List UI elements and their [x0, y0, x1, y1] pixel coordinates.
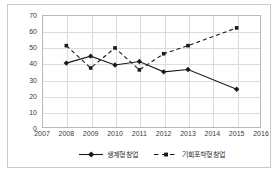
x-tick-label: 2009 — [83, 130, 99, 137]
x-tick-label: 2010 — [107, 130, 123, 137]
data-point-marker — [234, 87, 239, 92]
data-point-marker — [185, 67, 190, 72]
data-point-marker — [88, 53, 93, 58]
data-point-marker — [112, 62, 117, 67]
data-point-marker — [161, 69, 166, 74]
x-axis-labels: 2007200820092010201120122013201420152016 — [42, 130, 261, 142]
y-tick-label: 70 — [29, 12, 37, 19]
x-tick-label: 2012 — [156, 130, 172, 137]
x-tick-label: 2015 — [229, 130, 245, 137]
data-point-marker — [65, 44, 69, 48]
chart-series-layer — [42, 15, 261, 128]
x-tick-label: 2011 — [132, 130, 147, 137]
y-axis-labels: 010203040506070 — [7, 15, 40, 128]
legend-label-1: 기회포착형 창업 — [182, 149, 226, 159]
y-tick-label: 40 — [29, 60, 37, 67]
data-point-marker — [138, 68, 142, 72]
data-point-marker — [89, 66, 93, 70]
x-tick-label: 2008 — [59, 130, 75, 137]
data-point-marker — [137, 59, 142, 64]
legend-item-0: 생계형 창업 — [78, 149, 139, 159]
y-tick-label: 50 — [29, 44, 37, 51]
x-tick-label: 2016 — [253, 130, 269, 137]
data-point-marker — [64, 60, 69, 65]
legend-swatch-dashed-line-icon — [153, 150, 179, 159]
y-tick-label: 30 — [29, 76, 37, 83]
series-line-0 — [66, 56, 236, 89]
x-tick-label: 2007 — [34, 130, 50, 137]
data-point-marker — [186, 44, 190, 48]
legend-label-0: 생계형 창업 — [107, 149, 139, 159]
data-point-marker — [113, 46, 117, 50]
chart-legend: 생계형 창업 기회포착형 창업 — [42, 146, 261, 162]
legend-item-1: 기회포착형 창업 — [153, 149, 226, 159]
y-tick-label: 60 — [29, 28, 37, 35]
series-line-1 — [66, 28, 236, 70]
data-point-marker — [162, 52, 166, 56]
chart-figure: 010203040506070 200720082009201020112012… — [0, 0, 279, 175]
y-tick-label: 20 — [29, 92, 37, 99]
x-tick-label: 2013 — [180, 130, 196, 137]
x-tick-label: 2014 — [205, 130, 221, 137]
legend-swatch-solid-line-icon — [78, 150, 104, 159]
data-point-marker — [235, 26, 239, 30]
y-tick-label: 10 — [29, 108, 37, 115]
